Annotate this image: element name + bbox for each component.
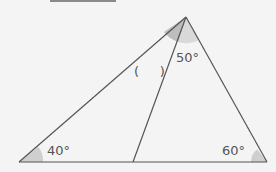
left-angle-shade [19, 147, 43, 162]
geometry-diagram: 40° 60° 50° ( ) [0, 0, 276, 172]
side-left [19, 17, 186, 162]
cevian [133, 17, 186, 162]
triangle-figure: 40° 60° 50° ( ) [0, 0, 276, 172]
left-angle-label: 40° [47, 143, 70, 158]
right-angle-shade [251, 149, 267, 162]
right-angle-label: 60° [222, 143, 245, 158]
apex-angle-label: 50° [176, 50, 199, 65]
side-right [186, 17, 267, 162]
unknown-angle-label[interactable]: ( ) [134, 64, 165, 79]
